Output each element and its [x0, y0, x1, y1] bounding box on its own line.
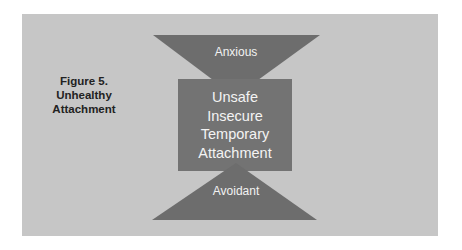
figure-caption: Figure 5. Unhealthy Attachment — [42, 74, 126, 116]
box-line-attachment: Attachment — [178, 144, 292, 163]
anxious-label: Anxious — [190, 45, 282, 59]
box-line-temporary: Temporary — [178, 125, 292, 144]
box-line-insecure: Insecure — [178, 107, 292, 126]
avoidant-label: Avoidant — [190, 184, 282, 198]
caption-line-1: Figure 5. — [42, 74, 126, 88]
box-line-unsafe: Unsafe — [178, 88, 292, 107]
caption-line-2: Unhealthy — [42, 88, 126, 102]
caption-line-3: Attachment — [42, 102, 126, 116]
attachment-box-text: Unsafe Insecure Temporary Attachment — [178, 88, 292, 162]
